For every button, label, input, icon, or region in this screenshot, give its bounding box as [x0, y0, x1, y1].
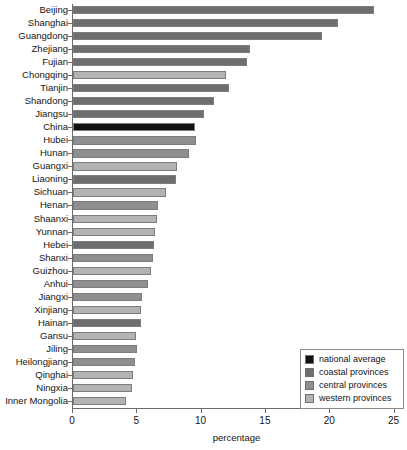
bar-gansu	[73, 332, 136, 340]
bar-row	[72, 278, 401, 290]
category-label: Inner Mongolia	[0, 395, 68, 407]
category-label: Tianjin	[0, 82, 68, 94]
x-axis-tick-label: 0	[69, 415, 75, 426]
bar-guangdong	[73, 32, 322, 40]
y-axis-tick	[68, 388, 72, 389]
category-label: Zhejiang	[0, 43, 68, 55]
legend-swatch-icon	[305, 381, 314, 390]
x-axis-tick-label: 15	[259, 415, 270, 426]
bar-sichuan	[73, 188, 166, 196]
bar-row	[72, 69, 401, 81]
legend-label: central provinces	[319, 379, 387, 392]
category-label: Guangdong	[0, 30, 68, 42]
y-axis-tick	[68, 258, 72, 259]
bar-row	[72, 330, 401, 342]
bar-heilongjiang	[73, 358, 135, 366]
x-axis-title: percentage	[72, 432, 401, 443]
bar-yunnan	[73, 228, 155, 236]
legend: national averagecoastal provincescentral…	[300, 349, 404, 409]
category-label: Shanghai	[0, 17, 68, 29]
y-axis-tick	[68, 153, 72, 154]
legend-swatch-icon	[305, 355, 314, 364]
bar-row	[72, 82, 401, 94]
category-label: Jiling	[0, 343, 68, 355]
category-label: Xinjiang	[0, 304, 68, 316]
x-axis-tick-label: 25	[388, 415, 399, 426]
y-axis-tick	[68, 114, 72, 115]
bar-row	[72, 56, 401, 68]
y-axis-tick	[68, 336, 72, 337]
legend-item-national: national average	[305, 353, 399, 366]
y-axis-tick	[68, 75, 72, 76]
bar-row	[72, 239, 401, 251]
bar-tianjin	[73, 84, 229, 92]
legend-item-central: central provinces	[305, 379, 399, 392]
x-axis-tick	[265, 408, 266, 413]
y-axis-tick	[68, 88, 72, 89]
category-label: Guizhou	[0, 265, 68, 277]
bar-xinjiang	[73, 306, 141, 314]
category-label: Gansu	[0, 330, 68, 342]
x-axis-tick	[136, 408, 137, 413]
bar-fujian	[73, 58, 247, 66]
y-axis-tick	[68, 166, 72, 167]
x-axis-tick	[72, 408, 73, 413]
bar-shaanxi	[73, 215, 157, 223]
category-label-column: BeijingShanghaiGuangdongZhejiangFujianCh…	[0, 4, 68, 408]
x-axis-tick-label: 10	[195, 415, 206, 426]
category-label: Yunnan	[0, 226, 68, 238]
bar-row	[72, 4, 401, 16]
bar-zhejiang	[73, 45, 250, 53]
bar-row	[72, 173, 401, 185]
bar-row	[72, 108, 401, 120]
bar-hebei	[73, 241, 154, 249]
y-axis-tick	[68, 62, 72, 63]
bar-row	[72, 17, 401, 29]
bar-row	[72, 199, 401, 211]
bar-row	[72, 186, 401, 198]
y-axis-tick	[68, 127, 72, 128]
category-label: Shandong	[0, 95, 68, 107]
category-label: Qinghai	[0, 369, 68, 381]
category-label: Ningxia	[0, 382, 68, 394]
y-axis-tick	[68, 140, 72, 141]
y-axis-tick	[68, 349, 72, 350]
bar-liaoning	[73, 175, 176, 183]
bar-row	[72, 95, 401, 107]
bar-guangxi	[73, 162, 177, 170]
bar-anhui	[73, 280, 148, 288]
category-label: Hebei	[0, 239, 68, 251]
y-axis-tick	[68, 179, 72, 180]
y-axis-tick	[68, 10, 72, 11]
x-axis-tick-label: 20	[324, 415, 335, 426]
legend-label: coastal provinces	[319, 366, 389, 379]
bar-row	[72, 317, 401, 329]
legend-swatch-icon	[305, 368, 314, 377]
y-axis-tick	[68, 219, 72, 220]
y-axis-tick	[68, 232, 72, 233]
legend-label: western provinces	[319, 392, 392, 405]
bar-henan	[73, 201, 158, 209]
bar-row	[72, 252, 401, 264]
bar-row	[72, 160, 401, 172]
category-label: Shaanxi	[0, 213, 68, 225]
bar-row	[72, 134, 401, 146]
category-label: Hubei	[0, 134, 68, 146]
y-axis-tick	[68, 401, 72, 402]
y-axis-tick	[68, 310, 72, 311]
legend-item-western: western provinces	[305, 392, 399, 405]
bar-chart: BeijingShanghaiGuangdongZhejiangFujianCh…	[0, 0, 407, 450]
category-label: Liaoning	[0, 173, 68, 185]
y-axis-tick	[68, 36, 72, 37]
legend-swatch-icon	[305, 394, 314, 403]
y-axis-tick	[68, 23, 72, 24]
category-label: Hunan	[0, 147, 68, 159]
bar-row	[72, 265, 401, 277]
bar-jiangxi	[73, 293, 142, 301]
bar-row	[72, 304, 401, 316]
bar-row	[72, 213, 401, 225]
category-label: Chongqing	[0, 69, 68, 81]
bar-row	[72, 291, 401, 303]
y-axis-tick	[68, 271, 72, 272]
legend-label: national average	[319, 353, 386, 366]
